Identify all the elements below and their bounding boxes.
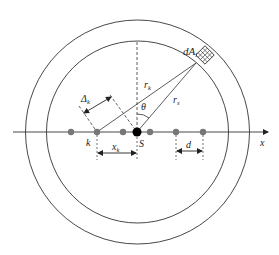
receiver-dot bbox=[200, 129, 206, 135]
x-axis-label: x bbox=[259, 137, 265, 148]
k-label: k bbox=[86, 137, 91, 148]
delta-dashed-right bbox=[110, 95, 134, 128]
r-k-line bbox=[97, 63, 196, 132]
receiver-dot bbox=[173, 129, 179, 135]
theta-arc bbox=[137, 114, 149, 118]
diagram-canvas: dAl rk rs θ Δk k S xk d x bbox=[0, 0, 279, 255]
delta-dashed-left bbox=[79, 106, 97, 132]
r-k-label: rk bbox=[144, 79, 151, 91]
receiver-dot bbox=[147, 129, 153, 135]
area-element-grid bbox=[196, 46, 214, 64]
receiver-dot bbox=[68, 129, 74, 135]
source-dot bbox=[133, 128, 142, 137]
d-label: d bbox=[186, 139, 192, 150]
delta-k-label: Δk bbox=[80, 93, 90, 105]
area-element-label: dAl bbox=[183, 45, 197, 59]
r-s-label: rs bbox=[173, 94, 180, 106]
receiver-dot bbox=[120, 129, 126, 135]
source-label: S bbox=[139, 138, 144, 149]
receiver-dot-k bbox=[94, 129, 100, 135]
x-k-label: xk bbox=[111, 141, 119, 153]
theta-label: θ bbox=[141, 101, 146, 112]
